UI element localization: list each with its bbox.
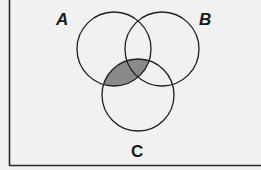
venn-diagram: A B C bbox=[0, 0, 261, 170]
circle-b bbox=[125, 12, 199, 86]
set-label-a: A bbox=[56, 11, 68, 28]
set-label-b: B bbox=[199, 11, 211, 28]
set-label-c: C bbox=[131, 143, 143, 160]
